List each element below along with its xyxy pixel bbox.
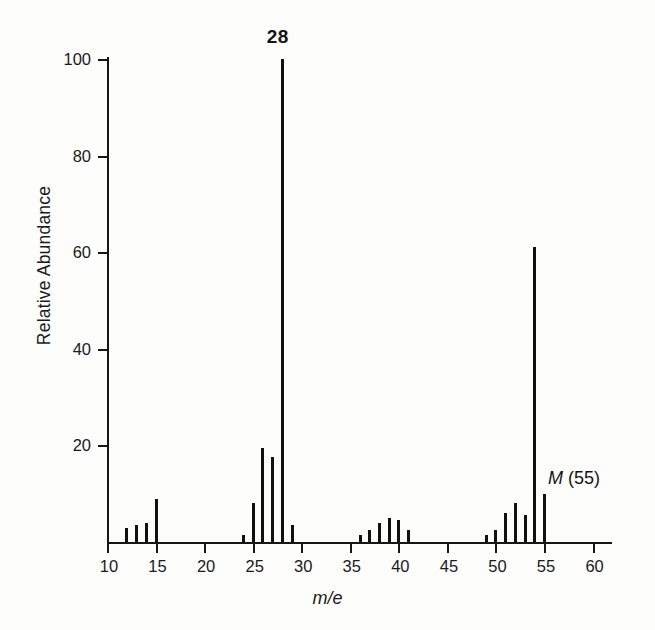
x-axis-line xyxy=(107,542,612,544)
peak-mz-15 xyxy=(155,499,158,542)
molecular-ion-symbol: M xyxy=(548,468,563,488)
peak-mz-38 xyxy=(378,523,381,542)
peak-mz-52 xyxy=(514,503,517,542)
x-tick-20 xyxy=(204,544,206,553)
peak-mz-12 xyxy=(125,528,128,542)
peak-mz-29 xyxy=(291,525,294,542)
x-tick-label-25: 25 xyxy=(235,556,275,576)
y-tick-100: 100 xyxy=(98,59,107,61)
peak-mz-37 xyxy=(368,530,371,542)
x-tick-25 xyxy=(253,544,255,553)
x-tick-50 xyxy=(495,544,497,553)
x-tick-45 xyxy=(447,544,449,553)
y-axis-title: Relative Abundance xyxy=(34,136,55,396)
x-tick-35 xyxy=(350,544,352,553)
x-tick-label-30: 30 xyxy=(283,556,323,576)
annotation-molecular-ion: M (55) xyxy=(548,468,600,489)
x-tick-label-40: 40 xyxy=(380,556,420,576)
x-tick-30 xyxy=(301,544,303,553)
molecular-ion-mass: (55) xyxy=(563,468,600,488)
y-tick-label-60: 60 xyxy=(73,242,91,262)
y-tick-60: 60 xyxy=(98,252,107,254)
peak-mz-41 xyxy=(407,530,410,542)
peak-mz-14 xyxy=(145,523,148,542)
y-tick-20: 20 xyxy=(98,445,107,447)
y-tick-label-20: 20 xyxy=(73,435,91,455)
x-tick-60 xyxy=(593,544,595,553)
peak-mz-36 xyxy=(359,535,362,542)
peak-mz-39 xyxy=(388,518,391,542)
x-tick-label-60: 60 xyxy=(575,556,615,576)
x-tick-40 xyxy=(398,544,400,553)
y-axis-line xyxy=(107,57,109,544)
peak-mz-25 xyxy=(252,503,255,542)
x-tick-label-10: 10 xyxy=(89,556,129,576)
peak-mz-27 xyxy=(271,457,274,542)
y-tick-label-40: 40 xyxy=(73,339,91,359)
peak-mz-28 xyxy=(281,59,284,542)
x-tick-55 xyxy=(544,544,546,553)
x-tick-label-45: 45 xyxy=(429,556,469,576)
mass-spectrum-figure: Relative Abundance m/e 20406080100 10152… xyxy=(0,0,655,630)
x-tick-label-50: 50 xyxy=(477,556,517,576)
peak-mz-26 xyxy=(261,448,264,542)
peak-mz-53 xyxy=(524,515,527,542)
y-tick-label-80: 80 xyxy=(73,146,91,166)
y-tick-label-100: 100 xyxy=(63,49,91,69)
x-tick-15 xyxy=(156,544,158,553)
peak-mz-50 xyxy=(494,530,497,542)
peak-mz-24 xyxy=(242,535,245,542)
y-tick-40: 40 xyxy=(98,349,107,351)
plot-area: 20406080100 1015202530354045505560 28M (… xyxy=(107,57,612,544)
x-tick-label-55: 55 xyxy=(526,556,566,576)
x-tick-label-15: 15 xyxy=(138,556,178,576)
peak-mz-51 xyxy=(504,513,507,542)
peak-mz-40 xyxy=(397,520,400,542)
x-tick-label-20: 20 xyxy=(186,556,226,576)
y-tick-80: 80 xyxy=(98,156,107,158)
peak-mz-49 xyxy=(485,535,488,542)
x-axis-title: m/e xyxy=(0,588,655,609)
peak-mz-54 xyxy=(533,247,536,542)
peak-mz-13 xyxy=(135,525,138,542)
x-tick-10 xyxy=(107,544,109,553)
x-tick-label-35: 35 xyxy=(332,556,372,576)
peak-mz-55 xyxy=(543,494,546,542)
annotation-base-peak: 28 xyxy=(267,26,289,48)
